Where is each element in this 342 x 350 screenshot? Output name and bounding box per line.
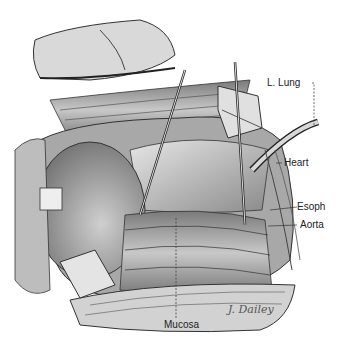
illustration-drawing — [0, 0, 342, 350]
label-l-lung: L. Lung — [267, 78, 300, 88]
artist-signature: J. Dailey — [228, 303, 274, 316]
label-mucosa: Mucosa — [164, 320, 199, 330]
surgical-illustration: L. Lung Heart Esoph Aorta Mucosa J. Dail… — [0, 0, 342, 350]
label-heart: Heart — [284, 158, 308, 168]
label-esoph: Esoph — [297, 202, 325, 212]
label-aorta: Aorta — [300, 220, 324, 230]
